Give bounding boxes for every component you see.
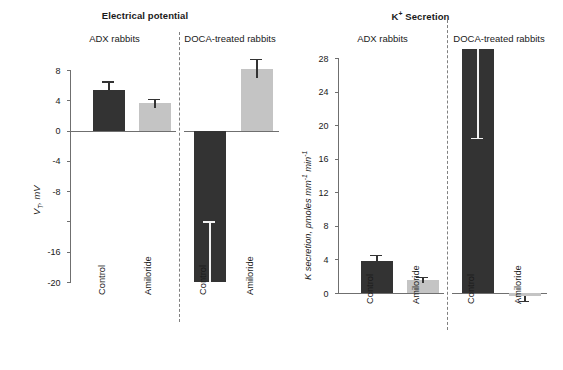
error-bar-right-adx-control [376,255,377,264]
panel-title-electrical-potential: Electrical potential [0,10,290,21]
y-tick-label-right-6: 4 [323,255,328,265]
y-tick-right-4: 12 [335,192,340,193]
y-tick-right-1: 24 [335,92,340,93]
y-tick-label-left-6: -16 [47,247,60,257]
error-bar-left-adx-amiloride [154,99,155,108]
y-tick-left-6: -16 [67,252,72,253]
y-axis-title-right-sup2: -1 [301,151,308,157]
x-label-right-doca-amiloride: Amiloride [513,265,523,304]
error-cap-right-doca-control [471,138,483,139]
y-tick-label-right-0: 28 [318,54,328,64]
error-cap-left-adx-amiloride [148,99,160,100]
y-tick-left-4: -8 [67,191,72,192]
y-tick-right-3: 16 [335,159,340,160]
y-axis-title-left-sub: T [37,205,44,209]
y-axis-title-left: VT, mV [32,186,44,215]
error-bar-left-doca-control [209,221,210,282]
y-tick-label-right-4: 12 [318,188,328,198]
y-tick-label-left-0: 8 [55,66,60,76]
y-tick-left-7: -20 [67,282,72,283]
y-tick-label-right-5: 8 [323,221,328,231]
y-tick-label-left-4: -8 [52,187,60,197]
y-tick-label-left-1: 4 [55,96,60,106]
panel-title-k-rest: Secretion [403,11,450,22]
error-cap-right-adx-control [370,255,382,256]
error-cap-left-adx-control [102,81,114,82]
y-tick-right-0: 28 [335,58,340,59]
panel-electrical-potential: Electrical potential ADX rabbits DOCA-tr… [0,0,290,370]
group-label-doca-left: DOCA-treated rabbits [170,33,290,44]
x-label-left-doca-amiloride: Amiloride [245,256,255,295]
y-tick-left-5 [67,221,72,222]
error-bar-left-adx-control [108,81,109,98]
y-axis-title-left-main: V [32,209,42,215]
group-label-doca-right: DOCA-treated rabbits [438,33,560,44]
zero-line-right-adx [339,293,444,294]
y-axis-title-right: K secretion, pmoles mm-1 min-1 [301,151,313,280]
y-tick-label-right-2: 20 [318,121,328,131]
y-axis-title-right-mid: min [303,157,313,175]
x-label-right-adx-control: Control [365,274,375,304]
error-bar-left-doca-amiloride [256,59,257,79]
panel-title-k-secretion: K+ Secretion [284,10,557,22]
y-tick-left-3: -4 [67,161,72,162]
y-tick-label-left-3: -4 [52,156,60,166]
plot-area-right: 28 24 20 16 12 8 4 0 [338,58,550,293]
error-cap-left-doca-control [203,221,215,222]
y-tick-label-left-7: -20 [47,278,60,288]
group-label-adx-left: ADX rabbits [62,33,167,44]
y-tick-label-right-7: 0 [323,289,328,299]
figure-root: Electrical potential ADX rabbits DOCA-tr… [0,0,563,370]
x-label-right-adx-amiloride: Amiloride [411,265,421,304]
y-tick-label-right-3: 16 [318,154,328,164]
x-label-left-adx-control: Control [97,265,107,295]
y-tick-right-2: 20 [335,125,340,126]
y-tick-right-6: 4 [335,259,340,260]
y-tick-left-1: 4 [67,100,72,101]
error-bar-right-doca-control [477,49,478,139]
x-label-left-doca-control: Control [198,265,208,295]
y-tick-right-5: 8 [335,226,340,227]
y-axis-title-left-unit: , mV [32,186,42,205]
y-axis-title-right-main: K secretion, pmoles mm [303,180,313,280]
y-tick-left-0: 8 [67,70,72,71]
plot-area-left: 8 4 0 -4 -8 -16 -20 [70,70,285,282]
x-label-left-adx-amiloride: Amiloride [143,256,153,295]
panel-divider-left [179,32,180,322]
x-label-right-doca-control: Control [466,274,476,304]
y-axis-title-right-sup1: -1 [301,174,308,180]
panel-k-secretion: K+ Secretion ADX rabbits DOCA-treated ra… [290,0,563,370]
error-cap-left-doca-amiloride [250,59,262,60]
zero-line-left-adx [71,131,176,132]
panel-divider-right [447,20,448,330]
y-tick-label-right-1: 24 [318,87,328,97]
group-label-adx-right: ADX rabbits [330,33,435,44]
y-tick-label-left-2: 0 [55,126,60,136]
